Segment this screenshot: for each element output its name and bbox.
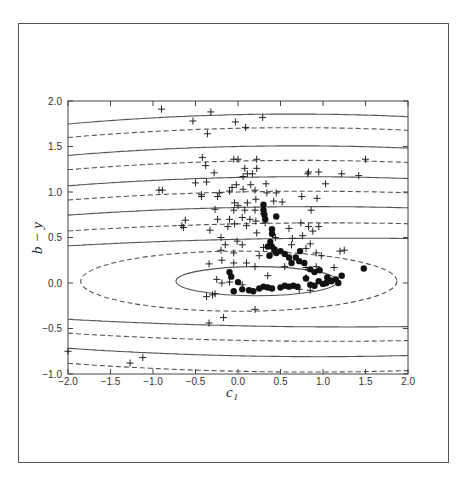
plus-marker	[252, 207, 259, 214]
plus-marker	[222, 241, 229, 248]
plus-marker	[243, 259, 250, 266]
filled-circle-marker	[327, 277, 333, 283]
plus-marker	[341, 247, 348, 254]
filled-circle-marker	[361, 265, 367, 271]
filled-circle-marker	[339, 273, 345, 279]
plus-marker	[273, 189, 280, 196]
plus-marker	[226, 216, 233, 223]
y-tick-label: −1.0	[42, 369, 62, 380]
plus-marker	[203, 178, 210, 185]
plus-marker	[253, 165, 260, 172]
filled-circle-marker	[335, 280, 341, 286]
plus-marker	[216, 189, 223, 196]
plus-marker	[202, 162, 209, 169]
contour-lines	[68, 114, 408, 372]
plus-marker	[159, 187, 166, 194]
x-tick-label: 2.0	[401, 376, 415, 387]
plus-marker	[305, 223, 312, 230]
plus-marker	[281, 263, 288, 270]
plus-marker	[199, 154, 206, 161]
y-tick-label: 2.0	[48, 96, 62, 107]
x-axis-label: c₁	[226, 384, 238, 400]
plus-marker	[198, 191, 205, 198]
axis-ticks: −2.0−1.5−1.0−0.50.00.51.01.52.0−1.0−0.50…	[42, 96, 415, 388]
plus-marker	[252, 263, 259, 270]
plus-marker	[252, 196, 259, 203]
filled-circle-marker	[303, 275, 309, 281]
filled-circle-marker	[297, 248, 303, 254]
x-tick-label: −1.0	[143, 376, 163, 387]
plus-marker	[315, 168, 322, 175]
filled-circle-marker	[269, 285, 275, 291]
filled-circle-marker	[250, 288, 256, 294]
plus-marker	[139, 354, 146, 361]
plus-marker	[239, 241, 246, 248]
x-tick-label: −1.5	[101, 376, 121, 387]
filled-circle-marker	[231, 288, 237, 294]
x-tick-label: 1.5	[359, 376, 373, 387]
filled-circle-marker	[260, 202, 266, 208]
filled-circle-marker	[286, 254, 292, 260]
y-tick-label: −0.5	[42, 323, 62, 334]
plus-marker	[211, 169, 218, 176]
plus-marker	[235, 156, 242, 163]
plus-marker	[264, 272, 271, 279]
plus-marker	[212, 206, 219, 213]
plus-marker	[322, 180, 329, 187]
plus-marker	[355, 172, 362, 179]
plus-marker	[206, 227, 213, 234]
plus-marker	[206, 260, 213, 267]
plus-marker	[178, 222, 185, 229]
plus-marker	[263, 180, 270, 187]
filled-circle-marker	[262, 216, 268, 222]
plus-marker	[314, 195, 321, 202]
scatter-chart: −2.0−1.5−1.0−0.50.00.51.01.52.0−1.0−0.50…	[0, 0, 468, 483]
filled-circle-marker	[266, 253, 272, 259]
plus-marker	[259, 114, 266, 121]
plus-marker	[252, 306, 259, 313]
plus-marker	[303, 245, 310, 252]
plus-marker	[263, 189, 270, 196]
plus-marker	[230, 259, 237, 266]
plus-marker	[239, 214, 246, 221]
filled-circle-marker	[301, 260, 307, 266]
plus-marker	[279, 199, 286, 206]
plus-marker	[214, 216, 221, 223]
plus-marker	[298, 193, 305, 200]
plus-marker	[286, 225, 293, 232]
filled-circle-marker	[265, 243, 271, 249]
plus-marker	[218, 247, 225, 254]
filled-circle-marker	[288, 260, 294, 266]
plus-marker	[247, 181, 254, 188]
plus-marker	[253, 229, 260, 236]
filled-circle-marker	[316, 278, 322, 284]
plus-marker	[127, 360, 134, 367]
y-tick-label: 0.5	[48, 232, 62, 243]
figure-caption	[30, 470, 440, 480]
plus-marker	[253, 156, 260, 163]
filled-circle-marker	[269, 231, 275, 237]
plus-marker	[213, 276, 220, 283]
filled-circle-marker	[239, 286, 245, 292]
plus-marker	[246, 216, 253, 223]
plus-marker	[192, 179, 199, 186]
plus-marker	[230, 249, 237, 256]
plus-marker	[338, 170, 345, 177]
x-tick-label: 0.5	[274, 376, 288, 387]
plus-marker	[220, 314, 227, 321]
plus-marker	[214, 193, 221, 200]
y-tick-label: 1.5	[48, 141, 62, 152]
plus-marker	[207, 108, 214, 115]
plot-area	[68, 101, 408, 374]
filled-circle-marker	[294, 283, 300, 289]
x-tick-label: −0.5	[186, 376, 206, 387]
plus-marker	[244, 199, 251, 206]
plus-marker	[234, 238, 241, 245]
plus-marker	[307, 240, 314, 247]
plus-marker	[204, 130, 211, 137]
plus-marker	[297, 219, 304, 226]
plus-marker	[189, 118, 196, 125]
plus-marker	[337, 248, 344, 255]
plus-marker	[331, 264, 338, 271]
plus-marker	[242, 124, 249, 131]
